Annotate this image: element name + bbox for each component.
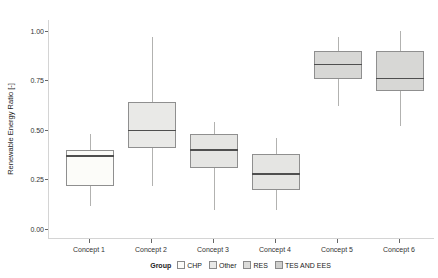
x-tick-label: Concept 4 xyxy=(244,245,306,254)
median-concept-4 xyxy=(252,173,300,175)
x-tick-label: Concept 6 xyxy=(368,245,430,254)
x-tick-mark xyxy=(399,239,400,243)
x-tick-label: Concept 2 xyxy=(120,245,182,254)
median-concept-2 xyxy=(128,130,176,132)
legend-entry-other: Other xyxy=(209,261,237,269)
y-tick-label: 0.25 xyxy=(14,175,44,184)
boxplot-figure: Renewable Energy Ratio [-] 0.000.250.500… xyxy=(0,0,438,278)
legend: Group CHPOtherRESTES AND EES xyxy=(48,258,433,272)
y-tick-label: 0.75 xyxy=(14,76,44,85)
box-concept-2 xyxy=(128,102,176,148)
legend-entry-tes-and-ees: TES AND EES xyxy=(275,261,331,269)
legend-items: CHPOtherRESTES AND EES xyxy=(177,261,331,269)
y-tick-label: 1.00 xyxy=(14,27,44,36)
legend-title: Group xyxy=(150,262,171,269)
y-tick-label: 0.00 xyxy=(14,225,44,234)
legend-entry-label: RES xyxy=(253,262,267,269)
legend-entry-chp: CHP xyxy=(177,261,202,269)
legend-entry-label: CHP xyxy=(187,262,202,269)
legend-key-swatch xyxy=(275,261,283,269)
plot-panel xyxy=(48,20,434,239)
y-tick-label: 0.50 xyxy=(14,126,44,135)
x-tick-mark xyxy=(337,239,338,243)
x-tick-label: Concept 3 xyxy=(182,245,244,254)
box-concept-3 xyxy=(190,134,238,168)
legend-key-swatch xyxy=(243,261,251,269)
y-tick-mark xyxy=(45,80,49,81)
x-tick-mark xyxy=(275,239,276,243)
legend-entry-res: RES xyxy=(243,261,267,269)
box-concept-4 xyxy=(252,154,300,190)
y-tick-mark xyxy=(45,130,49,131)
legend-key-swatch xyxy=(177,261,185,269)
x-tick-mark xyxy=(213,239,214,243)
box-concept-6 xyxy=(376,51,424,91)
legend-entry-label: Other xyxy=(219,262,237,269)
x-tick-mark xyxy=(89,239,90,243)
y-tick-mark xyxy=(45,31,49,32)
median-concept-5 xyxy=(314,64,362,66)
x-tick-label: Concept 5 xyxy=(306,245,368,254)
x-tick-mark xyxy=(151,239,152,243)
y-tick-mark xyxy=(45,229,49,230)
median-concept-3 xyxy=(190,149,238,151)
y-tick-mark xyxy=(45,179,49,180)
median-concept-1 xyxy=(66,155,114,157)
x-tick-label: Concept 1 xyxy=(58,245,120,254)
legend-key-swatch xyxy=(209,261,217,269)
legend-entry-label: TES AND EES xyxy=(285,262,331,269)
median-concept-6 xyxy=(376,78,424,80)
